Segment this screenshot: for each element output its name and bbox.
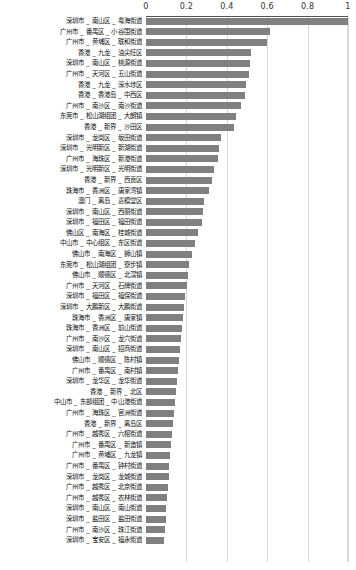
bar <box>146 92 245 99</box>
bar-category-label: 广州市 _ 海珠区 _ 新港街道 <box>66 154 142 165</box>
bar <box>146 399 175 406</box>
bar <box>146 304 184 311</box>
bar-row: 深圳市 _ 福田区 _ 福保街道 <box>0 291 356 302</box>
bar-row: 广州市 _ 南沙区 _ 南沙街道 <box>0 101 356 112</box>
bar <box>146 473 169 480</box>
bar-row: 香港 _ 香港岛 _ 中西区 <box>0 90 356 101</box>
bar-row: 香港 _ 新界 _ 西贡区 <box>0 175 356 186</box>
bar <box>146 49 251 56</box>
bar <box>146 219 202 226</box>
bar-category-label: 东莞市 _ 松山湖组团 _ 寮步镇 <box>60 260 142 271</box>
bar-row: 深圳市 _ 南山区 _ 桃源街道 <box>0 58 356 69</box>
bar-category-label: 深圳市 _ 龙岗区 _ 坂田街道 <box>66 133 142 144</box>
bar-category-label: 深圳市 _ 光明新区 _ 新湖街道 <box>60 143 142 154</box>
bar <box>146 431 172 438</box>
bar-row: 东莞市 _ 松山湖组团 _ 大朗镇 <box>0 111 356 122</box>
bar-category-label: 佛山区 _ 南海区 _ 桂城街道 <box>66 228 142 239</box>
bar-category-label: 珠海市 _ 香洲区 _ 前山街道 <box>66 323 142 334</box>
bar-row: 深圳市 _ 光明新区 _ 新湖街道 <box>0 143 356 154</box>
bar-row: 中山市 _ 东部组团 _ 中山港街道 <box>0 397 356 408</box>
bar-category-label: 广州市 _ 天河区 _ 五山街道 <box>66 69 142 80</box>
bar <box>146 166 214 173</box>
bar-row: 广州市 _ 番禺区 _ 南村镇 <box>0 366 356 377</box>
bar-row: 深圳市 _ 龙岗区 _ 龙城街道 <box>0 472 356 483</box>
bar-category-label: 东莞市 _ 松山湖组团 _ 大朗镇 <box>60 111 142 122</box>
bar <box>146 145 219 152</box>
x-tick-label-4: 0.8 <box>301 2 314 11</box>
x-tick-label-0: 0 <box>143 2 148 11</box>
bar-category-label: 深圳市 _ 南山区 _ 粤海街道 <box>66 16 142 27</box>
bar-row: 澳门 _ 离岛 _ 嘉模堂区 <box>0 196 356 207</box>
bar-category-label: 广州市 _ 天河区 _ 石牌街道 <box>66 281 142 292</box>
bar-category-label: 广州市 _ 越秀区 _ 六榕街道 <box>66 429 142 440</box>
bar <box>146 155 218 162</box>
bar <box>146 39 267 46</box>
bar-row: 佛山市 _ 顺德区 _ 陈村镇 <box>0 355 356 366</box>
bar <box>146 378 177 385</box>
bar <box>146 272 188 279</box>
bar-category-label: 香港 _ 香港岛 _ 中西区 <box>78 90 142 101</box>
bar-row: 广州市 _ 番禺区 _ 新造镇 <box>0 440 356 451</box>
bar-row: 中山市 _ 中心组区 _ 东区街道 <box>0 238 356 249</box>
bar <box>146 134 221 141</box>
bar-row: 广州市 _ 越秀区 _ 农林街道 <box>0 493 356 504</box>
bar <box>146 187 209 194</box>
bar-category-label: 广州市 _ 黄埔区 _ 联和街道 <box>66 37 142 48</box>
x-tick-label-1: 0.2 <box>180 2 193 11</box>
bar-category-label: 深圳市 _ 南山区 _ 招商街道 <box>66 344 142 355</box>
bar-row: 深圳市 _ 宝安区 _ 福永街道 <box>0 535 356 546</box>
bar-row: 香港 _ 九龙 _ 油尖旺区 <box>0 48 356 59</box>
bar-row: 香港 _ 新界 _ 离岛区 <box>0 419 356 430</box>
bar-category-label: 澳门 _ 离岛 _ 嘉模堂区 <box>78 196 142 207</box>
bar-category-label: 佛山市 _ 顺德区 _ 北滘镇 <box>72 270 142 281</box>
x-tick-label-5: 1 <box>345 2 350 11</box>
bar-row: 广州市 _ 南沙区 _ 龙穴街道 <box>0 334 356 345</box>
bar-row: 广州市 _ 越秀区 _ 北京街道 <box>0 482 356 493</box>
bar <box>146 452 170 459</box>
bar <box>146 346 180 353</box>
bar <box>146 124 234 131</box>
bar <box>146 28 270 35</box>
bar-row: 广州市 _ 越秀区 _ 六榕街道 <box>0 429 356 440</box>
bar-category-label: 香港 _ 九龙 _ 深水埗区 <box>78 80 142 91</box>
bar-row: 深圳市 _ 福田区 _ 福田街道 <box>0 217 356 228</box>
bar-category-label: 佛山市 _ 南海区 _ 狮山镇 <box>72 249 142 260</box>
bar-category-label: 广州市 _ 越秀区 _ 北京街道 <box>66 482 142 493</box>
bar-category-label: 香港 _ 新界 _ 西贡区 <box>84 175 142 186</box>
bar-category-label: 深圳市 _ 南山区 _ 西丽街道 <box>66 207 142 218</box>
bar-category-label: 深圳市 _ 宝安区 _ 福永街道 <box>66 535 142 546</box>
bar-row: 深圳市 _ 大鹏新区 _ 大鹏街道 <box>0 302 356 313</box>
bar <box>146 240 195 247</box>
bar-category-label: 深圳市 _ 南山区 _ 桃源街道 <box>66 58 142 69</box>
bar-category-label: 广州市 _ 海珠区 _ 官洲街道 <box>66 408 142 419</box>
bar-row: 广州市 _ 海珠区 _ 官洲街道 <box>0 408 356 419</box>
bar-rows: 深圳市 _ 南山区 _ 粤海街道广州市 _ 番禺区 _ 小谷围街道广州市 _ 黄… <box>0 16 356 562</box>
bar <box>146 441 171 448</box>
bar-row: 广州市 _ 番禺区 _ 小谷围街道 <box>0 27 356 38</box>
bar-category-label: 中山市 _ 中心组区 _ 东区街道 <box>60 238 142 249</box>
bar <box>146 388 176 395</box>
bar-category-label: 广州市 _ 越秀区 _ 农林街道 <box>66 493 142 504</box>
bar-category-label: 深圳市 _ 盐田区 _ 盐田街道 <box>66 514 142 525</box>
horizontal-bar-chart: 00.20.40.60.81 深圳市 _ 南山区 _ 粤海街道广州市 _ 番禺区… <box>0 0 356 570</box>
bar-category-label: 香港 _ 九龙 _ 油尖旺区 <box>78 48 142 59</box>
bar-row: 广州市 _ 南沙区 _ 珠江街道 <box>0 525 356 536</box>
bar <box>146 81 246 88</box>
bar-row: 佛山市 _ 南海区 _ 狮山镇 <box>0 249 356 260</box>
bar <box>146 335 181 342</box>
bar <box>146 71 249 78</box>
bar <box>146 484 168 491</box>
bar-category-label: 深圳市 _ 福田区 _ 福保街道 <box>66 291 142 302</box>
bar <box>146 261 189 268</box>
bar <box>146 198 204 205</box>
bar-row: 珠海市 _ 香洲区 _ 唐家镇 <box>0 313 356 324</box>
bar-row: 深圳市 _ 盐田区 _ 盐田街道 <box>0 514 356 525</box>
bar-category-label: 深圳市 _ 光明新区 _ 光明街道 <box>60 164 142 175</box>
bar-category-label: 广州市 _ 番禺区 _ 南村镇 <box>72 366 142 377</box>
bar-row: 广州市 _ 海珠区 _ 新港街道 <box>0 154 356 165</box>
bar-category-label: 香港 _ 新界 _ 离岛区 <box>84 419 142 430</box>
bar-row: 深圳市 _ 龙华区 _ 龙华街道 <box>0 376 356 387</box>
bar-category-label: 广州市 _ 南沙区 _ 龙穴街道 <box>66 334 142 345</box>
bar-row: 深圳市 _ 南山区 _ 粤海街道 <box>0 16 356 27</box>
bar <box>146 505 166 512</box>
